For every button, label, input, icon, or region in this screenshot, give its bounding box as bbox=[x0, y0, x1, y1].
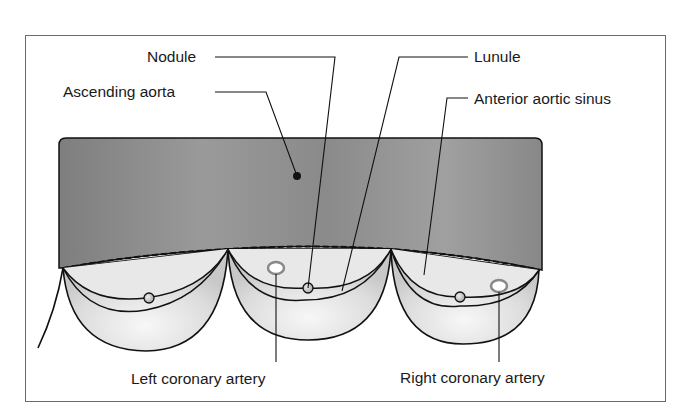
aortic-wall-left-edge bbox=[38, 268, 63, 348]
cusp-middle bbox=[228, 249, 391, 340]
label-ascending-aorta: Ascending aorta bbox=[63, 83, 175, 101]
label-left-coronary-artery: Left coronary artery bbox=[131, 370, 265, 388]
label-lunule: Lunule bbox=[474, 48, 521, 66]
nodule-right bbox=[455, 292, 465, 302]
label-right-coronary-artery: Right coronary artery bbox=[400, 369, 545, 387]
label-anterior-aortic-sinus: Anterior aortic sinus bbox=[474, 90, 611, 108]
left-coronary-ostium bbox=[268, 262, 284, 274]
aortic-valve-illustration bbox=[0, 0, 691, 414]
label-nodule: Nodule bbox=[147, 48, 196, 66]
nodule-left bbox=[144, 293, 154, 303]
right-coronary-ostium bbox=[491, 280, 507, 292]
